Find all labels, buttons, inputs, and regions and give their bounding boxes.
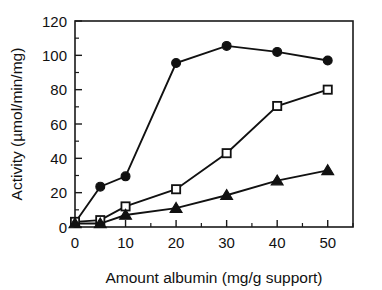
data-point-open-square: [223, 149, 231, 157]
x-tick-label: 30: [218, 234, 235, 251]
data-series-group: [69, 41, 333, 227]
data-point-filled-triangle: [322, 165, 334, 175]
plot-frame: [75, 21, 353, 227]
series-filled-triangle-series: [69, 165, 333, 228]
x-tick-label: 40: [269, 234, 286, 251]
series-line-filled-circle-series: [75, 46, 328, 223]
x-tick-label: 50: [319, 234, 336, 251]
y-axis-title: Activity (µmol/min/mg): [8, 48, 25, 201]
series-filled-circle-series: [71, 41, 333, 227]
data-point-filled-circle: [121, 172, 130, 181]
activity-vs-albumin-line-chart: 020406080100120 01020304050 Amount album…: [0, 0, 382, 290]
x-axis: 01020304050: [71, 220, 353, 251]
data-point-filled-circle: [323, 56, 332, 65]
x-tick-label: 10: [117, 234, 134, 251]
data-point-filled-circle: [96, 182, 105, 191]
data-point-filled-circle: [222, 41, 231, 50]
data-point-open-square: [172, 185, 180, 193]
x-tick-label: 20: [168, 234, 185, 251]
x-tick-label: 0: [71, 234, 79, 251]
y-tick-label: 120: [42, 13, 67, 30]
figure-container: 020406080100120 01020304050 Amount album…: [0, 0, 382, 290]
series-open-square-series: [71, 86, 332, 226]
series-line-filled-triangle-series: [75, 170, 328, 223]
y-axis: 020406080100120: [42, 13, 82, 236]
data-point-filled-circle: [273, 48, 282, 57]
y-tick-label: 20: [50, 184, 67, 201]
data-point-filled-circle: [172, 59, 181, 68]
y-tick-label: 0: [59, 219, 67, 236]
y-tick-label: 80: [50, 81, 67, 98]
data-point-open-square: [273, 102, 281, 110]
x-axis-title: Amount albumin (mg/g support): [105, 269, 322, 286]
data-point-open-square: [324, 86, 332, 94]
y-tick-label: 40: [50, 150, 67, 167]
y-tick-label: 60: [50, 116, 67, 133]
y-tick-label: 100: [42, 47, 67, 64]
